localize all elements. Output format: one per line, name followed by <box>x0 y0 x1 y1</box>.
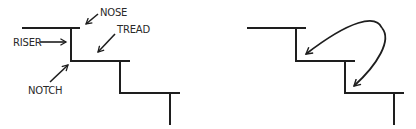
label-tread: TREAD <box>116 24 150 35</box>
stair-diagram: NOSE TREAD RISER NOTCH <box>0 0 416 129</box>
label-notch: NOTCH <box>28 85 62 96</box>
curved-arrow-lower-icon <box>354 28 385 86</box>
curved-arrow-upper-icon <box>306 21 382 54</box>
notch-arrow-icon <box>50 65 68 82</box>
nose-arrow-icon <box>86 14 98 24</box>
label-nose: NOSE <box>100 7 127 18</box>
label-arrows <box>40 14 115 82</box>
tread-arrow-icon <box>98 34 115 52</box>
label-riser: RISER <box>13 37 42 48</box>
right-staircase <box>247 28 404 125</box>
